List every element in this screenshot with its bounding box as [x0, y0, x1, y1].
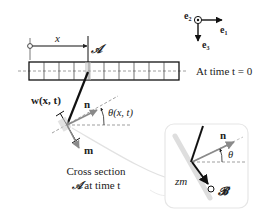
inset-angle-label: θ: [228, 149, 233, 160]
section-caption-line1: Cross section: [67, 165, 126, 177]
position-dimension: x 𝒜: [28, 32, 107, 62]
displacement-label: w(x, t): [31, 94, 61, 107]
position-label: x: [54, 32, 60, 44]
undeformed-beam: At time t = 0: [18, 62, 253, 80]
e2-label: e2: [184, 10, 191, 22]
section-label: 𝒜: [90, 42, 107, 56]
deformed-section: w(x, t) n m θ(x, t) Cross section 𝒜 at t…: [31, 72, 133, 191]
section-caption-line2: 𝒜 at time t: [71, 179, 121, 191]
angle-arc-icon: [101, 108, 104, 125]
time-zero-caption: At time t = 0: [196, 65, 253, 77]
material-point-icon: [208, 186, 214, 192]
angle-label: θ(x, t): [108, 107, 133, 119]
e1-label: e1: [220, 24, 227, 36]
inset-detail: n θ zm 𝓑: [165, 124, 248, 208]
normal-label: n: [84, 98, 90, 110]
coordinate-frame: e2 e1 e3: [184, 10, 227, 51]
tangent-label: m: [84, 144, 93, 156]
beam-diagram: e2 e1 e3 x 𝒜 At time t = 0: [0, 0, 279, 218]
offset-label: zm: [174, 175, 187, 187]
origin-marker-icon: [28, 44, 33, 49]
inset-normal-label: n: [220, 129, 226, 141]
e3-label: e3: [202, 39, 209, 51]
